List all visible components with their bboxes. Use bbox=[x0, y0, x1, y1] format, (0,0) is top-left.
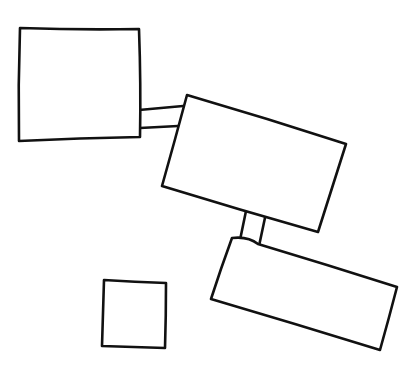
square-bottom-left bbox=[102, 280, 166, 348]
rect-middle bbox=[162, 95, 346, 232]
sketch-canvas bbox=[0, 0, 413, 375]
square-top-left bbox=[19, 28, 141, 141]
connector-square-to-middle bbox=[139, 106, 183, 128]
rect-lower-right bbox=[211, 238, 397, 350]
